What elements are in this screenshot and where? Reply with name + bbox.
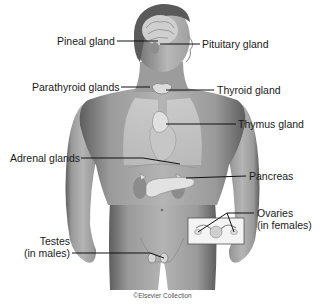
label-pineal-gland: Pineal gland [57,35,115,47]
ovaries-inset [188,218,244,244]
label-testes-subtitle: (in males) [8,247,70,259]
label-parathyroid-glands: Parathyroid glands [32,81,120,93]
label-thyroid-gland: Thyroid gland [217,84,281,96]
copyright-credit: ©Elsevier Collection [0,292,325,299]
label-thymus-gland: Thymus gland [238,118,304,130]
label-testes: Testes [24,235,70,247]
label-ovaries-subtitle: (in females) [257,219,312,231]
endocrine-system-figure: Pineal gland Pituitary gland Parathyroid… [0,0,325,306]
left-kidney-shape [133,177,147,199]
label-pancreas: Pancreas [249,170,293,182]
label-adrenal-glands: Adrenal glands [10,152,80,164]
label-pituitary-gland: Pituitary gland [202,38,269,50]
label-ovaries: Ovaries [257,207,293,219]
